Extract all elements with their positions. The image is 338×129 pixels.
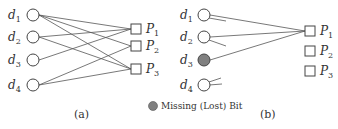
panel-a-parity-labels: P1 P2 P3 — [145, 22, 159, 78]
panel-b-data-nodes — [198, 9, 210, 91]
label-d1: d1 — [8, 8, 21, 24]
legend-label: Missing (Lost) Bit — [161, 101, 243, 111]
label-d4: d4 — [8, 78, 21, 94]
panel-a-data-nodes — [27, 9, 39, 91]
panel-b-data-labels: d1 d2 d3 d4 — [180, 8, 193, 94]
caption-b: (b) — [260, 108, 276, 121]
node-p2 — [131, 41, 141, 51]
panel-a-edges — [39, 15, 131, 85]
label-d3: d3 — [8, 53, 21, 69]
label-p2: P2 — [145, 39, 159, 55]
panel-b-parity-nodes — [305, 26, 315, 76]
node-d3-b-missing — [198, 54, 210, 66]
legend-missing-icon — [149, 102, 158, 111]
label-p3: P3 — [145, 62, 159, 78]
label-d2: d2 — [8, 30, 21, 46]
node-p1-b — [305, 26, 315, 36]
panel-a-data-labels: d1 d2 d3 d4 — [8, 8, 21, 94]
caption-a: (a) — [74, 108, 89, 121]
node-d1 — [27, 9, 39, 21]
node-d4 — [27, 79, 39, 91]
node-d2 — [27, 31, 39, 43]
node-p1 — [131, 24, 141, 34]
label-p1: P1 — [145, 22, 159, 38]
node-p2-b — [305, 46, 315, 56]
label-d1-b: d1 — [180, 8, 193, 24]
panel-b-edges — [209, 15, 305, 85]
label-p2-b: P2 — [319, 44, 333, 60]
node-d2-b — [198, 31, 210, 43]
panel-b-parity-labels: P1 P2 P3 — [319, 24, 333, 80]
node-p3 — [131, 64, 141, 74]
node-p3-b — [305, 66, 315, 76]
panel-a-parity-nodes — [131, 24, 141, 74]
node-d1-b — [198, 9, 210, 21]
node-d3 — [27, 54, 39, 66]
label-p1-b: P1 — [319, 24, 333, 40]
parity-graph-diagram: d1 d2 d3 d4 P1 P2 P3 (a) Missing (Lost) … — [0, 0, 338, 129]
node-d4-b — [198, 79, 210, 91]
label-d2-b: d2 — [180, 30, 193, 46]
label-p3-b: P3 — [319, 64, 333, 80]
label-d3-b: d3 — [180, 53, 193, 69]
label-d4-b: d4 — [180, 78, 193, 94]
